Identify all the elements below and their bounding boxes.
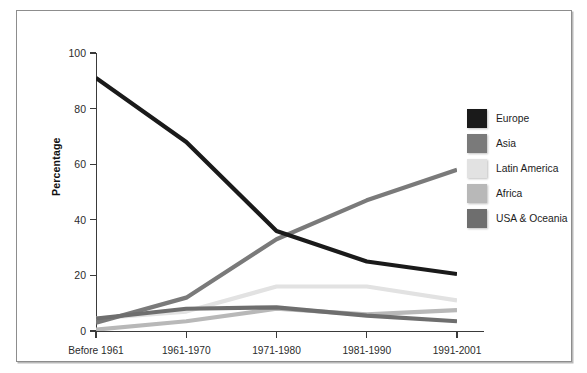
y-axis-title: Percentage: [50, 137, 62, 196]
legend-item: USA & Oceania: [467, 206, 587, 231]
series-lines: [96, 53, 457, 331]
legend-item-label: Africa: [496, 188, 522, 199]
x-tick-label: 1971-1980: [252, 345, 301, 356]
legend-item: Africa: [467, 181, 587, 206]
x-tick: [186, 331, 187, 338]
x-tick: [366, 331, 367, 338]
series-line-europe: [96, 78, 457, 274]
series-line-asia: [96, 170, 457, 323]
x-tick-label: 1991-2001: [433, 345, 482, 356]
x-tick: [95, 331, 96, 338]
y-tick-label: 20: [74, 269, 86, 281]
y-tick-label: 100: [68, 47, 86, 59]
legend-item-label: Asia: [496, 138, 516, 149]
legend-swatch-icon: [467, 109, 487, 128]
legend-item: Europe: [467, 106, 587, 131]
x-tick: [456, 331, 457, 338]
y-tick-label: 0: [80, 325, 86, 337]
legend-item: Asia: [467, 131, 587, 156]
legend-swatch-icon: [467, 209, 487, 228]
plot-area: 020406080100 Before 19611961-19701971-19…: [96, 53, 457, 331]
legend-item: Latin America: [467, 156, 587, 181]
legend-item-label: Europe: [496, 113, 529, 124]
legend-swatch-icon: [467, 159, 487, 178]
chart-frame: 020406080100 Before 19611961-19701971-19…: [16, 10, 572, 362]
x-tick-label: Before 1961: [68, 345, 124, 356]
legend-swatch-icon: [467, 184, 487, 203]
legend-swatch-icon: [467, 134, 487, 153]
legend-item-label: USA & Oceania: [496, 213, 568, 224]
x-tick-label: 1981-1990: [342, 345, 391, 356]
y-tick-label: 40: [74, 214, 86, 226]
x-axis-line: [96, 331, 484, 332]
legend-item-label: Latin America: [496, 163, 558, 174]
x-tick: [276, 331, 277, 338]
y-tick-label: 60: [74, 158, 86, 170]
x-tick-label: 1961-1970: [162, 345, 211, 356]
chart-legend: EuropeAsiaLatin AmericaAfricaUSA & Ocean…: [467, 106, 587, 231]
chart-screenshot: Source: Statistics Canada, 2001 Census. …: [0, 0, 587, 373]
y-tick-label: 80: [74, 103, 86, 115]
